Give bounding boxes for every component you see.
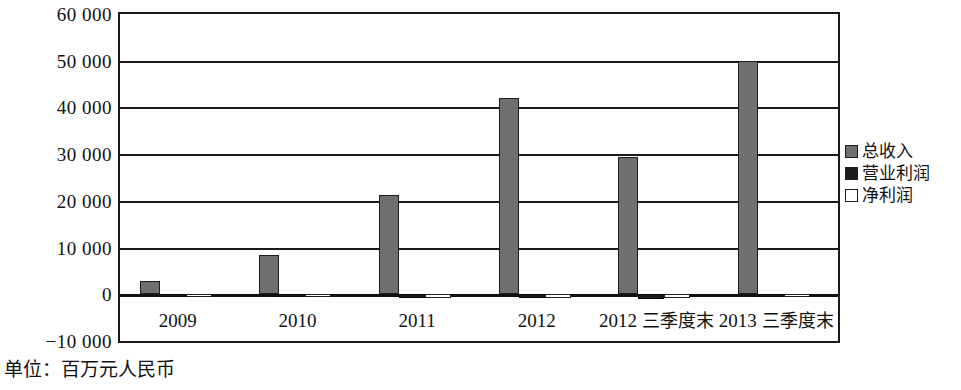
bar-group (601, 14, 721, 341)
legend-label: 净利润 (862, 187, 913, 204)
y-axis-tick-label: −10 000 (12, 332, 112, 351)
x-axis-tick-label: 2010 (238, 308, 358, 334)
legend-swatch-icon (845, 189, 858, 202)
y-axis-tick-label: 0 (12, 285, 112, 304)
legend-label: 营业利润 (862, 165, 930, 182)
bar-group (481, 14, 601, 341)
y-axis-tick-label: 50 000 (12, 52, 112, 71)
legend-swatch-icon (845, 145, 858, 158)
x-axis-tick-label: 2012 (477, 308, 597, 334)
bar-chart: 60 00050 00040 00030 00020 00010 0000−10… (0, 0, 961, 390)
bar-group (361, 14, 481, 341)
bar (259, 255, 279, 295)
y-axis-tick-labels: 60 00050 00040 00030 00020 00010 0000−10… (0, 0, 112, 390)
bar (305, 294, 331, 297)
unit-caption: 单位：百万元人民币 (4, 358, 175, 380)
legend-item: 净利润 (845, 184, 961, 206)
y-axis-tick-label: 10 000 (12, 239, 112, 258)
legend-item: 营业利润 (845, 162, 961, 184)
x-axis-category-labels: 20092010201120122012 三季度末2013 三季度末 (118, 306, 840, 340)
y-axis-tick-label: 20 000 (12, 192, 112, 211)
bar (638, 294, 664, 299)
bar (279, 294, 305, 297)
legend-swatch-icon (845, 167, 858, 180)
bar (664, 294, 690, 298)
bar (186, 294, 212, 297)
x-axis-tick-label: 2013 三季度末 (716, 308, 836, 334)
y-axis-tick-label: 30 000 (12, 145, 112, 164)
bar (738, 61, 758, 295)
bar (499, 98, 519, 294)
bar-group (720, 14, 840, 341)
chart-legend: 总收入营业利润净利润 (845, 140, 961, 206)
legend-label: 总收入 (862, 143, 913, 160)
bar (618, 157, 638, 294)
x-axis-tick-label: 2009 (118, 308, 238, 334)
bar (519, 294, 545, 298)
bar (425, 294, 451, 298)
bar-group (122, 14, 242, 341)
bar (545, 294, 571, 297)
legend-item: 总收入 (845, 140, 961, 162)
x-axis-tick-label: 2012 三季度末 (597, 308, 717, 334)
bar (758, 294, 784, 297)
x-axis-tick-label: 2011 (357, 308, 477, 334)
bar (379, 195, 399, 295)
plot-area (118, 12, 840, 343)
bars-layer (120, 14, 838, 341)
bar (784, 294, 810, 297)
y-axis-tick-label: 40 000 (12, 98, 112, 117)
bar (160, 294, 186, 297)
y-axis-tick-label: 60 000 (12, 5, 112, 24)
bar-group (242, 14, 362, 341)
bar (399, 294, 425, 298)
bar (140, 281, 160, 294)
